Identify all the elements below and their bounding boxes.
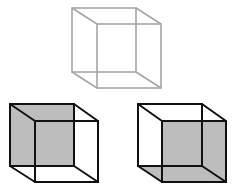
back-face [72, 8, 136, 72]
edge-bottom-right [74, 166, 98, 182]
edge-top-right [136, 8, 161, 24]
edge-bottom-left [72, 72, 97, 88]
cube-interpretation-left [10, 104, 98, 182]
necker-cube-ambiguous [72, 8, 161, 88]
edge-top-right [74, 104, 98, 121]
edge-top-left [138, 104, 162, 121]
front-face [97, 24, 161, 88]
necker-cube-diagram [0, 0, 237, 190]
shaded-region [10, 104, 74, 166]
cube-interpretation-right [138, 104, 226, 182]
edge-top-left [72, 8, 97, 24]
edge-bottom-left [10, 166, 35, 182]
edge-bottom-right [136, 72, 161, 88]
edge-top-right [202, 104, 226, 121]
